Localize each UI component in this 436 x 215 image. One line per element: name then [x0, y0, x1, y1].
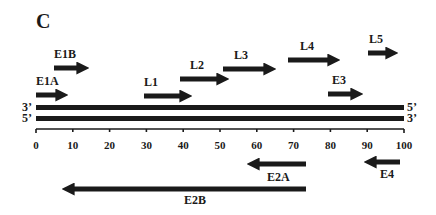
- tick-label-50: 50: [215, 139, 226, 151]
- tick-label-70: 70: [288, 139, 299, 151]
- strand-bottom: [36, 116, 404, 121]
- scale-axis: [36, 129, 404, 133]
- tick-label-60: 60: [251, 139, 262, 151]
- tick-label-40: 40: [178, 139, 189, 151]
- tick-label-90: 90: [362, 139, 373, 151]
- tick-label-10: 10: [67, 139, 78, 151]
- tick-label-30: 30: [141, 139, 152, 151]
- tick-label-20: 20: [104, 139, 115, 151]
- tick-label-100: 100: [396, 139, 413, 151]
- genome-map: [0, 0, 436, 215]
- strand-top: [36, 105, 404, 110]
- tick-label-80: 80: [325, 139, 336, 151]
- tick-label-0: 0: [33, 139, 39, 151]
